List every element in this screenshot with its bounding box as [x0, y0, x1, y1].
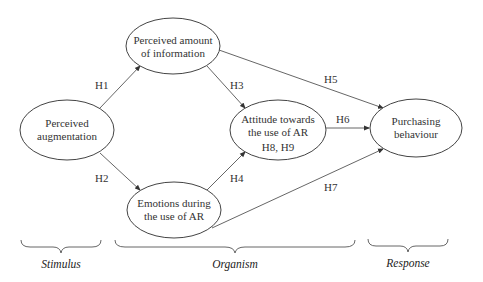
node-label-line2: the use of AR [144, 210, 205, 222]
node-label-line2: the use of AR [248, 126, 309, 138]
node-attitude: Attitude towards the use of AR H8, H9 [230, 100, 326, 160]
node-label-line2: behaviour [394, 128, 438, 140]
brace-stimulus [21, 240, 101, 253]
stage-label-stimulus: Stimulus [41, 258, 81, 270]
node-label-line1: Purchasing [392, 115, 441, 127]
node-label-line1: Perceived [45, 117, 89, 129]
edge-h5 [219, 50, 383, 108]
hypothesis-label-h3: H3 [230, 79, 244, 91]
node-perceived-info: Perceived amount of information [126, 18, 220, 74]
hypothesis-label-h7: H7 [324, 181, 338, 193]
sor-model-diagram: Perceived augmentation Perceived amount … [0, 0, 483, 282]
stage-label-response: Response [385, 257, 429, 270]
node-label-line1: Perceived amount [133, 34, 212, 46]
brace-response [368, 239, 448, 252]
hypothesis-label-h5: H5 [324, 73, 338, 85]
node-label-line2: augmentation [37, 130, 97, 142]
hypothesis-label-h4: H4 [230, 172, 244, 184]
stage-label-organism: Organism [212, 258, 258, 271]
brace-organism [115, 240, 355, 253]
hypothesis-label-h1: H1 [95, 79, 108, 91]
node-purchasing: Purchasing behaviour [370, 99, 462, 157]
edge-h4 [207, 152, 245, 190]
node-label-line1: Attitude towards [241, 113, 315, 125]
node-emotions: Emotions during the use of AR [127, 182, 221, 238]
hypothesis-label-h8-h9: H8, H9 [262, 141, 295, 153]
node-label-line1: Emotions during [137, 197, 211, 209]
node-perceived-augmentation: Perceived augmentation [20, 100, 114, 160]
edge-h7 [212, 149, 383, 228]
hypothesis-label-h6: H6 [336, 113, 350, 125]
node-label-line2: of information [141, 47, 205, 59]
hypothesis-label-h2: H2 [95, 172, 108, 184]
